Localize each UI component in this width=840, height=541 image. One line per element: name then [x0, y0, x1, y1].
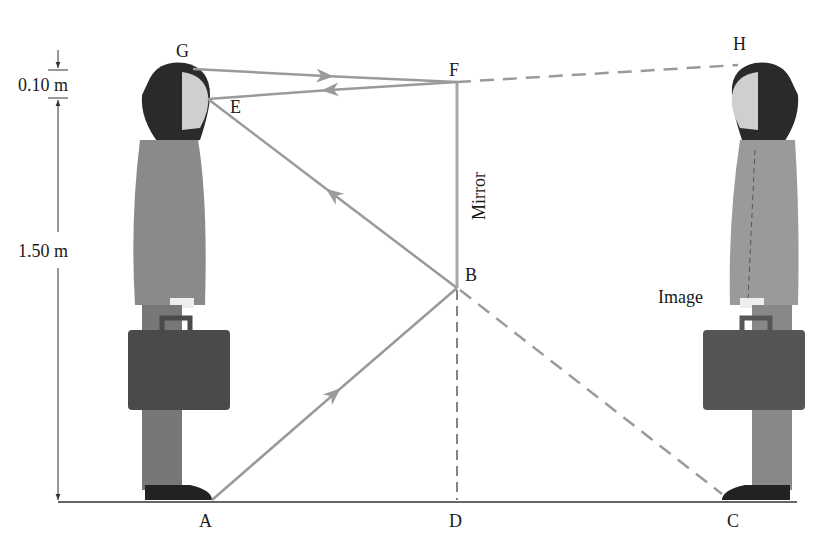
mirror-label: Mirror: [469, 172, 489, 220]
dimension-eye-height-label: 1.50 m: [18, 241, 68, 261]
point-label-b: B: [465, 265, 477, 285]
point-label-e: E: [230, 97, 241, 117]
person-image: [703, 63, 805, 500]
ray-b-to-e: [208, 99, 457, 288]
point-label-f: F: [449, 60, 459, 80]
point-label-d: D: [449, 511, 462, 531]
ray-f-to-e: [208, 82, 457, 99]
dimension-top-gap-label: 0.10 m: [18, 75, 68, 95]
person-object: [128, 63, 230, 500]
virtual-ray-b-to-c: [460, 290, 722, 494]
virtual-ray-f-to-h: [457, 65, 738, 82]
point-label-c: C: [727, 511, 739, 531]
point-label-a: A: [199, 511, 212, 531]
light-rays: [193, 69, 457, 500]
ray-a-to-b: [212, 288, 457, 500]
point-label-g: G: [176, 41, 189, 61]
ray-g-to-f: [193, 69, 457, 82]
point-label-h: H: [733, 34, 746, 54]
dimension-markers: [48, 50, 68, 500]
mirror-diagram: 0.10 m 1.50 m Mirror Image: [0, 0, 840, 541]
image-label: Image: [658, 287, 703, 307]
